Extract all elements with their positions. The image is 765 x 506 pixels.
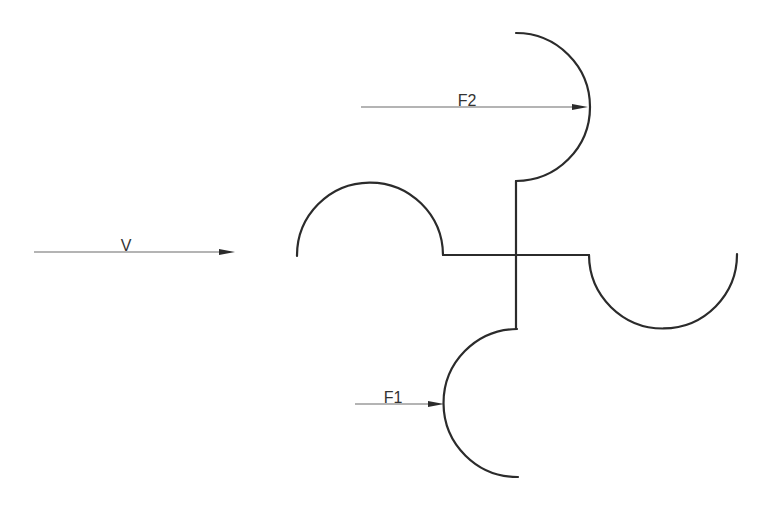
force-1-label: F1: [384, 389, 403, 406]
velocity-arrow: V: [34, 237, 235, 255]
arrowhead-icon: [428, 401, 444, 407]
force-2-arrow: F2: [361, 92, 588, 110]
arrowhead-icon: [572, 104, 588, 110]
arrowhead-icon: [219, 249, 235, 255]
force-1-arrow: F1: [355, 389, 444, 407]
rotor-arms: [443, 181, 589, 329]
diagram-canvas: V F2 F1: [0, 0, 765, 506]
velocity-label: V: [121, 237, 132, 254]
right-cup: [589, 254, 737, 328]
force-2-label: F2: [458, 92, 477, 109]
left-cup: [297, 183, 443, 256]
bottom-cup: [444, 329, 518, 477]
